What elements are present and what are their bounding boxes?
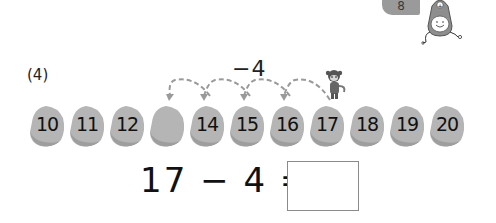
rock-number: 11 xyxy=(68,113,106,135)
rock-number: 17 xyxy=(308,113,346,135)
rock-number: 16 xyxy=(268,113,306,135)
rock-number: 14 xyxy=(188,113,226,135)
equation: 17 − 4 = xyxy=(140,160,310,200)
rock-20: 20 xyxy=(428,104,466,148)
answer-box[interactable] xyxy=(287,161,359,211)
rock-14: 14 xyxy=(188,104,226,148)
rock-number: 18 xyxy=(348,113,386,135)
jump-arcs xyxy=(160,72,340,102)
plus-mascot-icon: + xyxy=(420,0,470,48)
number-line: 10 11 12 14 15 16 17 18 19 20 xyxy=(28,104,488,150)
rock-number: 10 xyxy=(28,113,66,135)
page-number: 8 xyxy=(397,0,405,13)
equation-right: 4 xyxy=(243,160,267,200)
page-number-tag: 8 xyxy=(382,0,420,15)
rock-blank xyxy=(148,104,186,148)
rock-15: 15 xyxy=(228,104,266,148)
rock-18: 18 xyxy=(348,104,386,148)
rock-number: 15 xyxy=(228,113,266,135)
svg-text:+: + xyxy=(437,2,442,9)
rock-number: 12 xyxy=(108,113,146,135)
jump-arc-3 xyxy=(204,79,250,96)
monkey-icon xyxy=(324,68,348,100)
rock-17: 17 xyxy=(308,104,346,148)
rock-12: 12 xyxy=(108,104,146,148)
jump-arc-2 xyxy=(244,79,290,96)
equation-left: 17 xyxy=(140,160,187,200)
rock-16: 16 xyxy=(268,104,306,148)
rock-10: 10 xyxy=(28,104,66,148)
rock-11: 11 xyxy=(68,104,106,148)
rock-number: 20 xyxy=(428,113,466,135)
equation-operator: − xyxy=(200,160,231,200)
rock-number: 19 xyxy=(388,113,426,135)
rock-19: 19 xyxy=(388,104,426,148)
problem-label: (4) xyxy=(27,66,48,84)
